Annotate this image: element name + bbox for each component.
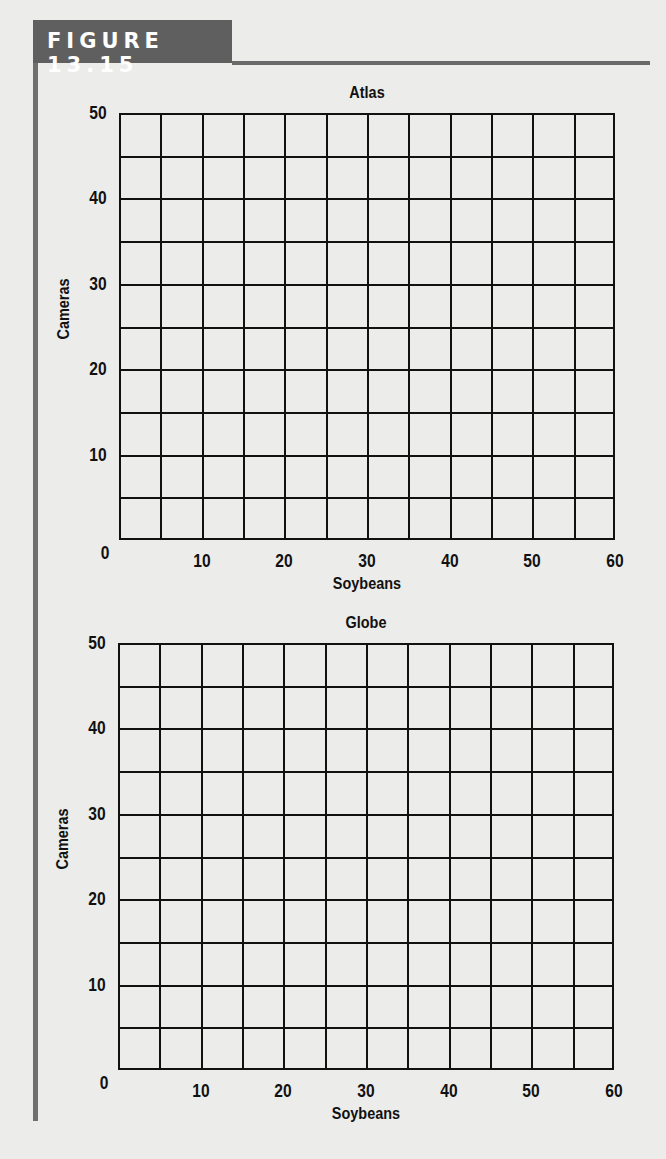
grid-line-horizontal (121, 284, 613, 286)
grid-line-horizontal (121, 327, 613, 329)
grid-line-horizontal (121, 412, 613, 414)
y-tick-label: 10 (89, 444, 106, 466)
grid-line-horizontal (120, 985, 612, 987)
y-axis-label: Cameras (53, 809, 73, 870)
x-axis-label: Soybeans (333, 574, 401, 594)
y-tick-label: 50 (88, 632, 105, 654)
x-tick-label: 40 (440, 1080, 457, 1102)
grid-line-horizontal (121, 156, 613, 158)
x-tick-label: 40 (441, 550, 458, 572)
x-tick-label: 30 (357, 1080, 374, 1102)
y-tick-label: 30 (89, 273, 106, 295)
x-tick-label: 50 (524, 550, 541, 572)
chart-grid (118, 643, 614, 1070)
y-tick-label: 50 (89, 102, 106, 124)
chart-title: Globe (346, 613, 387, 633)
grid-line-horizontal (121, 497, 613, 499)
x-tick-label: 30 (358, 550, 375, 572)
grid-line-horizontal (120, 1027, 612, 1029)
y-tick-label: 30 (88, 803, 105, 825)
x-tick-label: 0 (101, 542, 110, 564)
header-rule (232, 61, 650, 65)
x-tick-label: 20 (276, 550, 293, 572)
grid-line-horizontal (120, 728, 612, 730)
grid-line-horizontal (120, 857, 612, 859)
x-axis-label: Soybeans (332, 1104, 400, 1124)
y-tick-label: 40 (89, 187, 106, 209)
grid-line-horizontal (121, 241, 613, 243)
grid-line-horizontal (120, 942, 612, 944)
grid-line-horizontal (120, 686, 612, 688)
grid-line-horizontal (121, 369, 613, 371)
grid-line-horizontal (120, 771, 612, 773)
chart-title: Atlas (349, 83, 384, 103)
figure-label: FIGURE 13.15 (47, 29, 232, 77)
chart-grid (119, 113, 615, 540)
x-tick-label: 10 (193, 550, 210, 572)
grid-line-horizontal (121, 455, 613, 457)
x-tick-label: 10 (192, 1080, 209, 1102)
x-tick-label: 60 (605, 1080, 622, 1102)
figure-label-tab: FIGURE 13.15 (33, 20, 232, 63)
y-tick-label: 20 (89, 358, 106, 380)
x-tick-label: 50 (523, 1080, 540, 1102)
y-tick-label: 20 (88, 888, 105, 910)
y-tick-label: 40 (88, 717, 105, 739)
x-tick-label: 20 (275, 1080, 292, 1102)
y-tick-label: 10 (88, 974, 105, 996)
y-axis-label: Cameras (54, 279, 74, 340)
left-border-bar (33, 63, 38, 1121)
grid-line-horizontal (121, 198, 613, 200)
grid-line-horizontal (120, 814, 612, 816)
x-tick-label: 60 (606, 550, 623, 572)
grid-line-horizontal (120, 899, 612, 901)
x-tick-label: 0 (100, 1072, 109, 1094)
